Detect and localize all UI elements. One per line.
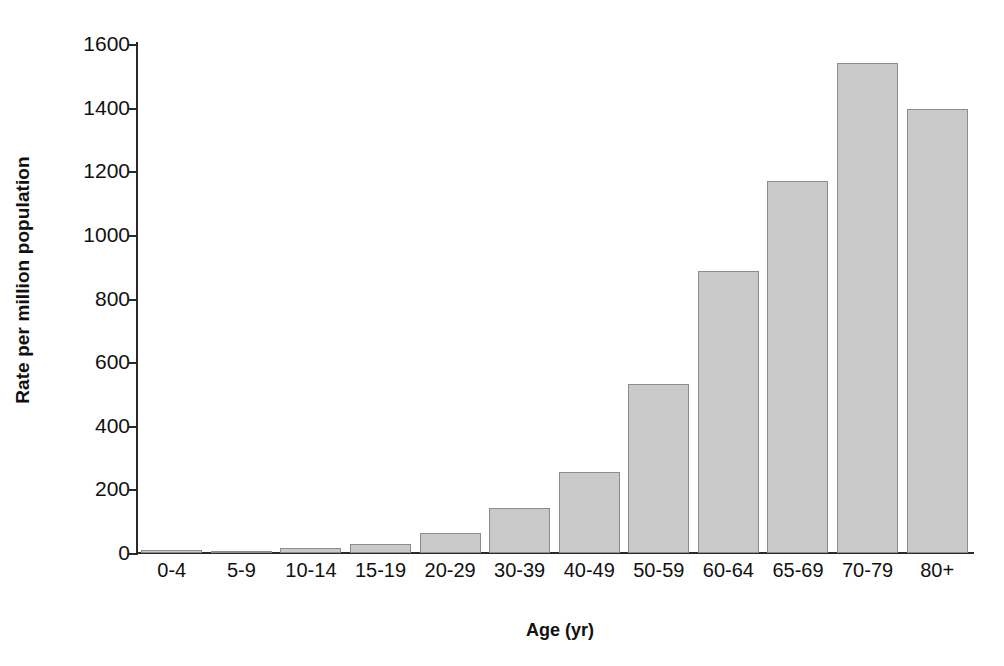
y-tick-mark bbox=[129, 426, 137, 428]
y-tick-mark bbox=[129, 299, 137, 301]
y-tick-mark bbox=[129, 362, 137, 364]
bar bbox=[837, 63, 898, 553]
x-tick-label: 10-14 bbox=[276, 558, 345, 582]
plot-area: 02004006008001000120014001600 bbox=[137, 44, 972, 553]
y-tick-mark bbox=[129, 553, 137, 555]
x-tick-label: 15-19 bbox=[346, 558, 415, 582]
bar bbox=[628, 384, 689, 553]
bar-slot bbox=[555, 44, 624, 553]
bar-slot bbox=[903, 44, 972, 553]
y-tick-label: 0 bbox=[118, 542, 130, 563]
bar bbox=[698, 271, 759, 553]
x-tick-label: 60-64 bbox=[694, 558, 763, 582]
bar-slot bbox=[624, 44, 693, 553]
y-tick-label: 1000 bbox=[83, 224, 130, 245]
y-tick-mark bbox=[129, 489, 137, 491]
bar-slot bbox=[137, 44, 206, 553]
y-tick-mark bbox=[129, 44, 137, 46]
x-tick-label: 40-49 bbox=[555, 558, 624, 582]
y-tick-label: 600 bbox=[95, 351, 130, 372]
bar-slot bbox=[276, 44, 345, 553]
y-tick-label: 1400 bbox=[83, 97, 130, 118]
bar-slot bbox=[485, 44, 554, 553]
bar-slot bbox=[694, 44, 763, 553]
y-tick-label: 1600 bbox=[83, 33, 130, 54]
bar-slot bbox=[207, 44, 276, 553]
y-axis-title: Rate per million population bbox=[8, 0, 38, 560]
bar-slot bbox=[416, 44, 485, 553]
x-tick-label: 20-29 bbox=[416, 558, 485, 582]
bar bbox=[559, 472, 620, 553]
bar bbox=[420, 533, 481, 553]
bar bbox=[350, 544, 411, 553]
bar bbox=[211, 551, 272, 553]
x-tick-label: 50-59 bbox=[624, 558, 693, 582]
bar bbox=[141, 550, 202, 553]
y-tick-mark bbox=[129, 108, 137, 110]
x-tick-label: 0-4 bbox=[137, 558, 206, 582]
y-tick-mark bbox=[129, 171, 137, 173]
y-tick-label: 800 bbox=[95, 288, 130, 309]
x-tick-label: 65-69 bbox=[763, 558, 832, 582]
y-tick-label: 1200 bbox=[83, 160, 130, 181]
bar-slot bbox=[833, 44, 902, 553]
bar bbox=[489, 508, 550, 553]
bar bbox=[907, 109, 968, 553]
bar bbox=[280, 548, 341, 553]
bar-slot bbox=[763, 44, 832, 553]
x-axis-tick-labels: 0-45-910-1415-1920-2930-3940-4950-5960-6… bbox=[137, 558, 972, 582]
x-tick-label: 70-79 bbox=[833, 558, 902, 582]
x-axis-title: Age (yr) bbox=[130, 620, 990, 641]
bar bbox=[767, 181, 828, 553]
x-tick-label: 5-9 bbox=[207, 558, 276, 582]
bar-slot bbox=[346, 44, 415, 553]
y-tick-label: 400 bbox=[95, 415, 130, 436]
x-tick-label: 30-39 bbox=[485, 558, 554, 582]
bar-series bbox=[137, 44, 972, 553]
y-tick-label: 200 bbox=[95, 478, 130, 499]
y-tick-mark bbox=[129, 235, 137, 237]
bar-chart-figure: Rate per million population 020040060080… bbox=[0, 0, 1004, 666]
x-tick-label: 80+ bbox=[903, 558, 972, 582]
